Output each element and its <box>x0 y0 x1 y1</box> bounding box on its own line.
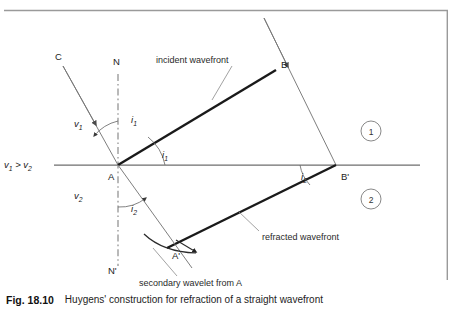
velocity-label-v2: v2 <box>74 190 83 203</box>
velocity-comparison-label: v1 > v2 <box>4 159 32 172</box>
angle-label-i1-lower: i1 <box>162 149 168 162</box>
point-label-A: A <box>108 171 115 182</box>
region-2-label: 2 <box>369 195 374 205</box>
point-label-N-prime: N' <box>108 265 117 276</box>
refracted-ray-line <box>118 165 192 268</box>
point-label-N: N <box>113 56 120 67</box>
figure-caption-number: Fig. 18.10 <box>6 294 54 306</box>
figure-container: 1 2 C N B A B' A' N' i1 i1 i2 i2 v1 v2 <box>0 0 468 313</box>
point-label-B: B <box>281 59 287 70</box>
annotation-incident-wavefront: incident wavefront <box>156 55 229 65</box>
point-label-A-prime: A' <box>172 250 180 261</box>
angle-label-i1-upper: i1 <box>131 114 137 127</box>
point-label-C: C <box>55 51 62 62</box>
velocity-label-v1: v1 <box>74 118 83 131</box>
figure-caption: Fig. 18.10 Huygens' construction for ref… <box>0 286 468 313</box>
incident-ray-CA-arrow <box>63 66 96 125</box>
annotation-refracted-wavefront: refracted wavefront <box>262 232 340 242</box>
region-1-label: 1 <box>369 127 374 137</box>
huygens-refraction-diagram: 1 2 C N B A B' A' N' i1 i1 i2 i2 v1 v2 <box>0 0 468 313</box>
leader-incident-wavefront <box>212 66 232 100</box>
figure-caption-text: Huygens' construction for refraction of … <box>65 294 323 305</box>
leader-refracted-wavefront <box>238 211 259 231</box>
point-label-B-prime: B' <box>341 171 349 182</box>
incident-wavefront-line <box>118 70 276 165</box>
